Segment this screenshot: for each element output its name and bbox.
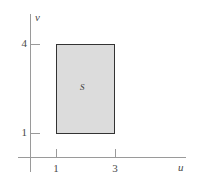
region-s-rectangle [56,44,115,134]
x-tick-label-1: 1 [49,163,63,174]
v-axis-label: v [35,12,40,23]
x-tick-mark-3 [115,149,116,158]
y-tick-mark-1 [31,133,40,134]
x-tick-label-3: 3 [108,163,122,174]
region-s-label: S [80,83,85,92]
u-axis-line [18,157,186,158]
y-tick-label-1: 1 [14,127,27,138]
y-tick-label-4: 4 [14,38,27,49]
y-tick-mark-4 [31,44,40,45]
figure-container: 4 1 1 3 v u S [0,0,200,187]
v-axis-line [30,14,31,172]
u-axis-label: u [178,162,184,173]
x-tick-mark-1 [56,149,57,158]
